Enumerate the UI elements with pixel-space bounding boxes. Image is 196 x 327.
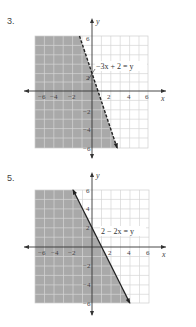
y-axis-label: y: [95, 17, 100, 26]
x-axis-label: x: [161, 250, 166, 259]
x-axis-arrow-right-icon: [161, 89, 166, 93]
graph-problem-5: −6 −4 −2 2 4 6 6 4 2 −2 −4 −6 x y 2 − 2x…: [0, 160, 196, 327]
y-tick: 4: [86, 205, 90, 213]
x-tick: −4: [51, 249, 59, 257]
y-tick: 6: [86, 35, 90, 43]
y-axis-arrow-up-icon: [90, 172, 94, 177]
x-tick: 4: [127, 93, 131, 101]
x-tick: −2: [68, 93, 76, 101]
x-tick: 6: [146, 249, 150, 257]
x-tick: −6: [38, 249, 46, 257]
y-tick: −6: [83, 300, 91, 308]
y-tick: −4: [83, 281, 91, 289]
x-tick: −4: [50, 93, 58, 101]
y-tick: 2: [86, 224, 90, 232]
x-axis-label: x: [160, 94, 165, 103]
y-tick: −6: [83, 145, 91, 153]
x-tick: 6: [145, 93, 149, 101]
y-axis-label: y: [95, 171, 100, 180]
y-axis-arrow-down-icon: [90, 154, 94, 159]
x-axis-arrow-left-icon: [24, 245, 29, 249]
x-tick: 4: [127, 249, 131, 257]
x-tick: 2: [107, 93, 111, 101]
graph-problem-3: −6 −4 −2 2 4 6 6 2 −2 −4 −6 x y −3x + 2 …: [0, 0, 196, 160]
x-tick: 2: [108, 249, 112, 257]
equation-label: −3x + 2 = y: [96, 62, 134, 71]
y-axis-arrow-down-icon: [90, 311, 94, 316]
problem-5: 5. −6: [0, 160, 196, 327]
x-tick: −6: [38, 93, 46, 101]
y-tick: −2: [83, 262, 91, 270]
y-tick: −4: [83, 126, 91, 134]
equation-label: 2 − 2x = y: [101, 227, 134, 236]
y-axis-arrow-up-icon: [90, 18, 94, 23]
y-tick: 6: [86, 187, 90, 195]
problem-3: 3.: [0, 0, 196, 160]
y-tick: −2: [83, 108, 91, 116]
x-tick: −2: [68, 249, 76, 257]
x-axis-arrow-right-icon: [161, 245, 166, 249]
x-axis-arrow-left-icon: [24, 89, 29, 93]
